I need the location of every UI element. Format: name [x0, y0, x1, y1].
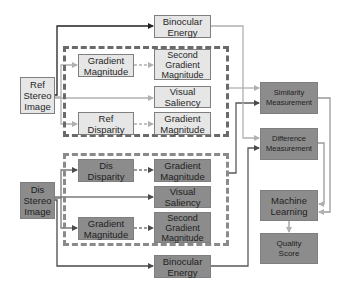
similarity-measurement-box: Similarity Measurement [260, 82, 318, 114]
dis-disparity-box: Dis Disparity [78, 159, 134, 182]
dis-binocular-energy-box: Binocular Energy [154, 255, 211, 278]
ref-visual-saliency-box: Visual Saliency [154, 86, 211, 108]
ref-second-gradient-magnitude-box: Second Gradient Magnitude [154, 49, 211, 80]
dis-visual-saliency-box: Visual Saliency [154, 186, 211, 208]
dis-stereo-image-box: Dis Stereo Image [20, 182, 55, 219]
ref-binocular-energy-box: Binocular Energy [154, 15, 211, 38]
dis-gradient-magnitude-box: Gradient Magnitude [78, 217, 134, 240]
ref-disparity-box: Ref Disparity [78, 112, 134, 135]
dis-disparity-gradient-magnitude-box: Gradient Magnitude [154, 159, 211, 182]
iqa-pipeline-diagram: Ref Stereo Image Binocular Energy Gradie… [0, 0, 347, 293]
ref-gradient-magnitude-box: Gradient Magnitude [78, 54, 134, 77]
machine-learning-box: Machine Learning [260, 190, 318, 221]
ref-stereo-image-box: Ref Stereo Image [20, 77, 55, 114]
quality-score-box: Quality Score [260, 233, 318, 264]
dis-second-gradient-magnitude-box: Second Gradient Magnitude [154, 212, 211, 243]
difference-measurement-box: Difference Measurement [260, 128, 318, 160]
ref-disparity-gradient-magnitude-box: Gradient Magnitude [154, 112, 211, 135]
